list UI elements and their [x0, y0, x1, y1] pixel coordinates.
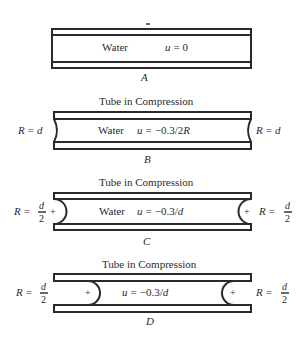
equation-d: u=−0.3/d	[122, 286, 169, 298]
water-label-c: Water	[99, 205, 125, 217]
water-label-a: Water	[102, 41, 128, 53]
tube-b-upper-wall	[54, 112, 251, 119]
panel-title-b: Tube in Compression	[99, 95, 194, 107]
tube-b-lower-wall	[54, 142, 251, 149]
plus-sign-d-left: +	[85, 287, 91, 298]
tube-d-lower-wall	[54, 305, 251, 312]
panel-title-c: Tube in Compression	[99, 176, 194, 188]
plus-sign-c-left: +	[50, 206, 56, 217]
radius-right-c-num: d	[285, 200, 291, 211]
radius-right-d-den: 2	[282, 294, 287, 305]
panel-label-b: B	[144, 153, 151, 165]
radius-left-b: R=d	[17, 124, 43, 136]
radius-left-c-num: d	[39, 200, 45, 211]
plus-sign-c-right: +	[244, 206, 250, 217]
equation-a: u= 0	[165, 41, 188, 53]
meniscus-b-left	[54, 119, 57, 142]
radius-left-d-num: d	[41, 281, 47, 292]
panel-c: Tube in Compression R= d 2 + + R= d 2 Wa…	[13, 176, 292, 247]
meniscus-b-right	[248, 119, 251, 142]
equation-c: u=−0.3/d	[137, 205, 184, 217]
radius-right-c-den: 2	[285, 213, 290, 224]
radius-left-d-den: 2	[41, 294, 46, 305]
radius-left-c: R=	[13, 205, 30, 217]
panel-title-d: Tube in Compression	[102, 258, 197, 270]
plus-sign-d-right: +	[230, 287, 236, 298]
panel-d: Tube in Compression + + R= d 2 R= d 2 u=…	[15, 258, 289, 327]
radius-right-d-num: d	[282, 281, 288, 292]
panel-a: Water u= 0 A	[52, 24, 251, 83]
radius-right-d: R=	[255, 286, 272, 298]
equation-b: u=−0.3/2R	[137, 124, 190, 136]
panel-b: Tube in Compression R=d R=d Water u=−0.3…	[17, 95, 281, 165]
radius-left-d: R=	[15, 286, 32, 298]
tube-c-upper-wall	[54, 193, 251, 199]
capillary-tube-diagram: Water u= 0 A Tube in Compression R=d R=d…	[0, 0, 306, 344]
water-label-b: Water	[98, 124, 124, 136]
radius-right-c: R=	[258, 205, 275, 217]
radius-right-b: R=d	[255, 124, 281, 136]
panel-label-a: A	[140, 71, 148, 83]
radius-left-c-den: 2	[39, 213, 44, 224]
panel-label-d: D	[145, 315, 154, 327]
tube-d-upper-wall	[54, 274, 251, 281]
meniscus-c-left	[54, 199, 67, 224]
tube-c-lower-wall	[54, 224, 251, 230]
panel-label-c: C	[143, 235, 151, 247]
